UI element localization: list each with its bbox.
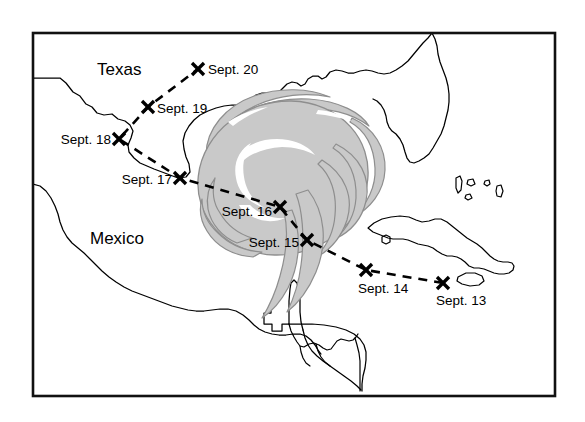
track-marker-sept-18[interactable]	[113, 133, 125, 145]
track-label-sept-18: Sept. 18	[61, 132, 111, 147]
region-label-mexico: Mexico	[90, 229, 144, 248]
track-marker-sept-14[interactable]	[360, 264, 372, 276]
track-marker-sept-20[interactable]	[192, 63, 204, 75]
track-label-sept-15: Sept. 15	[249, 235, 299, 250]
track-marker-sept-19[interactable]	[142, 101, 154, 113]
hurricane-track-map: Texas Mexico Sept. 20 Sept. 19 Sept. 18 …	[0, 0, 585, 422]
track-label-sept-16: Sept. 16	[222, 204, 272, 219]
track-label-sept-14: Sept. 14	[358, 281, 409, 296]
track-label-sept-13: Sept. 13	[436, 293, 486, 308]
hurricane-symbol	[178, 79, 389, 318]
islands-bahamas	[456, 176, 503, 200]
track-label-sept-19: Sept. 19	[157, 101, 207, 116]
island-cayman	[457, 273, 484, 286]
track-label-sept-20: Sept. 20	[208, 62, 258, 77]
region-label-texas: Texas	[97, 60, 141, 79]
track-label-sept-17: Sept. 17	[122, 172, 172, 187]
island-cuba	[368, 216, 514, 274]
track-marker-sept-17[interactable]	[174, 172, 186, 184]
map-canvas: Texas Mexico Sept. 20 Sept. 19 Sept. 18 …	[0, 0, 585, 422]
